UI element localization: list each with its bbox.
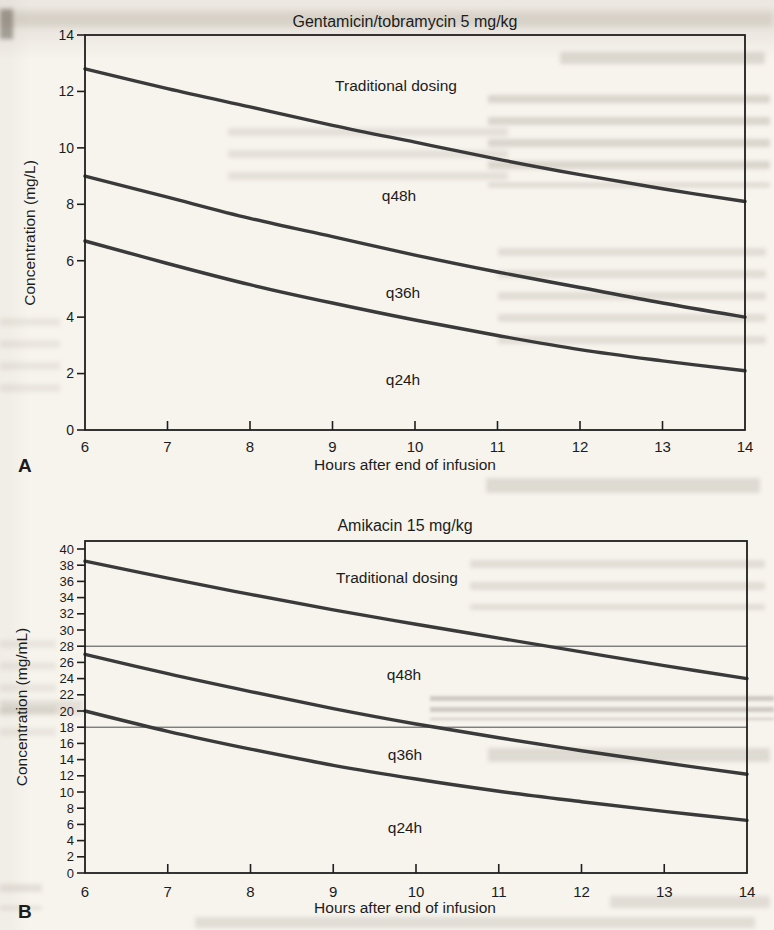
y-tick-label: 34 — [60, 590, 74, 605]
y-tick-label: 12 — [58, 83, 74, 99]
x-tick-label: 12 — [572, 438, 589, 455]
scanned-page: 0246810121467891011121314024681012141618… — [0, 0, 774, 930]
y-tick-label: 36 — [60, 574, 74, 589]
x-tick-label: 7 — [163, 438, 171, 455]
y-tick-label: 0 — [67, 866, 74, 881]
chart-b-x-axis-label: Hours after end of infusion — [85, 899, 725, 917]
chart-a-title: Gentamicin/tobramycin 5 mg/kg — [85, 13, 725, 31]
y-tick-label: 40 — [60, 542, 74, 557]
x-tick-label: 12 — [573, 883, 590, 900]
y-tick-label: 10 — [60, 785, 74, 800]
y-tick-label: 10 — [58, 140, 74, 156]
x-tick-label: 14 — [737, 438, 754, 455]
x-tick-label: 11 — [491, 883, 507, 900]
curve-q36h — [85, 241, 745, 371]
y-tick-label: 6 — [67, 817, 74, 832]
y-tick-label: 4 — [67, 833, 74, 848]
x-tick-label: 9 — [329, 883, 337, 900]
chart-a-y-axis-label: Concentration (mg/L) — [21, 160, 39, 306]
y-tick-label: 26 — [60, 655, 74, 670]
chart-panel-b: 0246810121416182022242628303234363840678… — [60, 541, 756, 900]
chart-b-title: Amikacin 15 mg/kg — [85, 517, 725, 535]
curve-label-traditional-b: Traditional dosing — [336, 569, 458, 587]
curve-label-traditional-a: Traditional dosing — [335, 77, 457, 95]
y-tick-label: 12 — [60, 768, 74, 783]
chart-a-x-axis-label: Hours after end of infusion — [85, 456, 725, 474]
y-tick-label: 14 — [60, 752, 74, 767]
y-tick-label: 0 — [66, 422, 74, 438]
x-tick-label: 13 — [656, 883, 673, 900]
y-tick-label: 38 — [60, 558, 74, 573]
panel-letter-b: B — [18, 901, 32, 923]
x-tick-label: 11 — [490, 438, 506, 455]
x-tick-label: 10 — [407, 438, 424, 455]
x-tick-label: 8 — [246, 883, 254, 900]
x-tick-label: 6 — [81, 883, 89, 900]
y-tick-label: 6 — [66, 253, 74, 269]
y-tick-label: 28 — [60, 639, 74, 654]
y-tick-label: 16 — [60, 736, 74, 751]
x-tick-label: 9 — [328, 438, 336, 455]
y-tick-label: 8 — [67, 801, 74, 816]
y-tick-label: 32 — [60, 606, 74, 621]
curve-label-q24h-a: q24h — [386, 371, 420, 389]
y-tick-label: 24 — [60, 671, 74, 686]
panel-letter-a: A — [18, 455, 32, 477]
x-tick-label: 13 — [654, 438, 671, 455]
y-tick-label: 30 — [60, 623, 74, 638]
y-tick-label: 2 — [67, 849, 74, 864]
x-tick-label: 14 — [739, 883, 756, 900]
curve-label-q48h-a: q48h — [382, 187, 416, 205]
y-tick-label: 18 — [60, 720, 74, 735]
y-tick-label: 22 — [60, 687, 74, 702]
x-tick-label: 8 — [246, 438, 254, 455]
y-tick-label: 20 — [60, 704, 74, 719]
x-tick-label: 6 — [81, 438, 89, 455]
curve-label-q24h-b: q24h — [388, 819, 422, 837]
y-tick-label: 8 — [66, 196, 74, 212]
curve-label-q48h-b: q48h — [387, 666, 421, 684]
x-tick-label: 7 — [164, 883, 172, 900]
y-tick-label: 2 — [66, 365, 74, 381]
curve-label-q36h-b: q36h — [388, 746, 422, 764]
chart-b-y-axis-label: Concentration (mg/mL) — [13, 628, 31, 787]
x-tick-label: 10 — [408, 883, 425, 900]
y-tick-label: 14 — [58, 27, 74, 43]
y-tick-label: 4 — [66, 309, 74, 325]
curve-label-q36h-a: q36h — [386, 284, 420, 302]
